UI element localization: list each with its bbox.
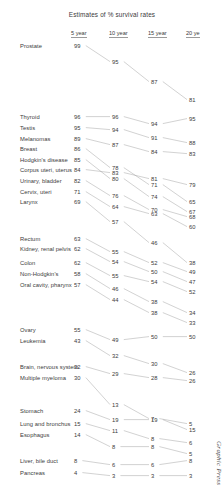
credit-text: Graphic Press <box>215 441 223 485</box>
slopegraph-chart: Estimates of % survival rates 5 year10 y… <box>0 0 224 491</box>
slope-lines <box>0 0 224 491</box>
